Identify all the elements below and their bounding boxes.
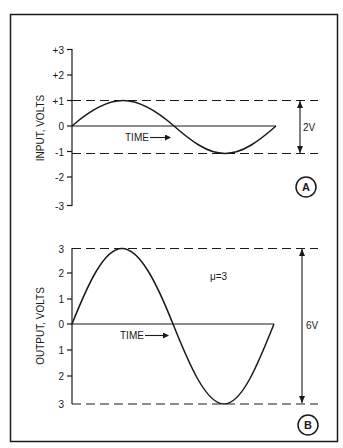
panel-a-tick-label: 0 xyxy=(58,121,64,132)
panel-b-tick-label: 3 xyxy=(58,399,64,410)
panel-b: 3 2 1 0 1 2 3 OUTPUT, VOLTS μ=3 TIME 6V … xyxy=(35,244,319,436)
panel-b-tick-label: 1 xyxy=(58,345,64,356)
panel-a-tick-label: +3 xyxy=(53,45,65,56)
panel-b-tick-label: 0 xyxy=(58,319,64,330)
panel-b-output-sine-wave xyxy=(72,249,274,405)
panel-a-tick-label: +1 xyxy=(53,96,65,107)
panel-b-amplitude-arrowhead-bottom xyxy=(299,396,305,403)
panel-a: +3 +2 +1 0 -1 -2 -3 INPUT, VOLTS TIME 2V… xyxy=(35,45,318,212)
panel-a-y-axis-title: INPUT, VOLTS xyxy=(35,94,46,161)
panel-a-amplitude-arrowhead-bottom xyxy=(297,146,303,153)
panel-a-tick-marks xyxy=(67,50,72,206)
panel-a-tick-label: -3 xyxy=(55,201,64,212)
panel-a-input-sine-wave xyxy=(72,101,276,154)
panel-b-tick-label: 3 xyxy=(58,244,64,255)
panel-b-tick-label: 1 xyxy=(58,294,64,305)
panel-b-time-label: TIME xyxy=(120,330,144,341)
panel-b-letter: B xyxy=(304,419,312,431)
panel-b-tick-marks xyxy=(67,273,72,376)
panel-a-amplitude-label: 2V xyxy=(303,122,316,133)
panel-a-tick-label: +2 xyxy=(53,70,65,81)
panel-b-y-axis-title: OUTPUT, VOLTS xyxy=(35,287,46,365)
panel-a-tick-label: -2 xyxy=(55,172,64,183)
panel-b-tick-label: 2 xyxy=(58,268,64,279)
panel-a-tick-label: -1 xyxy=(55,147,64,158)
panel-b-amplitude-arrowhead-top xyxy=(299,249,305,256)
panel-b-gain-label: μ=3 xyxy=(210,271,228,282)
panel-b-amplitude-label: 6V xyxy=(306,320,319,331)
panel-a-time-label: TIME xyxy=(125,132,149,143)
panel-a-letter: A xyxy=(302,181,310,193)
panel-a-amplitude-arrowhead-top xyxy=(297,101,303,108)
panel-b-tick-label: 2 xyxy=(58,371,64,382)
amplifier-gain-diagram: +3 +2 +1 0 -1 -2 -3 INPUT, VOLTS TIME 2V… xyxy=(0,0,343,448)
